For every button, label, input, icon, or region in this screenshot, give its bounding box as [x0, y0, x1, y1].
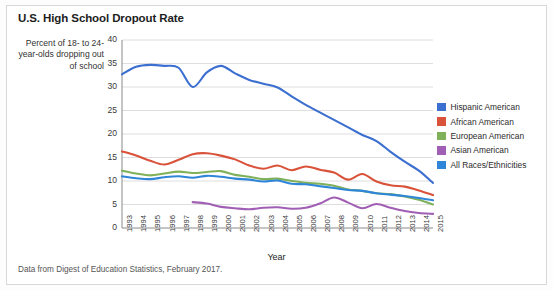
x-tick-label: 2014 [422, 215, 431, 232]
x-tick-label: 2005 [295, 215, 304, 232]
legend-swatch-icon [437, 103, 446, 112]
y-tick-label: 25 [95, 105, 117, 115]
series-line [122, 171, 433, 205]
x-tick-label: 2009 [351, 215, 360, 232]
legend-item[interactable]: Asian American [437, 143, 549, 157]
y-tick-label: 5 [95, 199, 117, 209]
legend-item[interactable]: African American [437, 114, 549, 128]
legend-label: European American [451, 131, 525, 141]
x-tick-label: 2001 [238, 215, 247, 232]
series-line [193, 197, 433, 213]
x-tick-label: 2010 [366, 215, 375, 232]
legend-item[interactable]: Hispanic American [437, 100, 549, 114]
figure-caption: Data from Digest of Education Statistics… [18, 265, 222, 274]
x-tick-label: 2011 [380, 216, 389, 232]
legend-swatch-icon [437, 146, 446, 155]
y-tick-label: 10 [95, 175, 117, 185]
x-tick-label: 2007 [323, 215, 332, 232]
x-tick-label: 1994 [139, 215, 148, 232]
x-axis-title: Year [0, 252, 553, 262]
x-tick-label: 1999 [210, 215, 219, 232]
y-tick-label: 15 [95, 152, 117, 162]
y-tick-label: 30 [95, 81, 117, 91]
legend-swatch-icon [437, 132, 446, 141]
x-tick-label: 2003 [267, 215, 276, 232]
x-tick-label: 2002 [252, 215, 261, 232]
legend-swatch-icon [437, 161, 446, 170]
x-tick-label: 2000 [224, 215, 233, 232]
x-tick-label: 2008 [337, 215, 346, 232]
y-tick-label: 40 [95, 34, 117, 44]
legend-item[interactable]: All Races/Ethnicities [437, 158, 549, 172]
x-tick-label: 2013 [408, 215, 417, 232]
figure-container: U.S. High School Dropout Rate Percent of… [0, 0, 553, 290]
x-tick-label: 2012 [394, 215, 403, 232]
x-tick-label: 1998 [196, 215, 205, 232]
y-tick-label: 20 [95, 128, 117, 138]
x-tick-label: 1997 [182, 215, 191, 232]
x-tick-label: 1996 [168, 215, 177, 232]
x-tick-label: 1993 [125, 215, 134, 232]
chart-legend: Hispanic American African American Europ… [437, 100, 549, 172]
legend-label: Asian American [451, 145, 509, 155]
y-tick-label: 0 [95, 222, 117, 232]
x-tick-label: 2015 [436, 215, 445, 232]
legend-label: Hispanic American [451, 102, 520, 112]
y-tick-label: 35 [95, 58, 117, 68]
legend-swatch-icon [437, 117, 446, 126]
x-tick-label: 1995 [153, 215, 162, 232]
legend-label: All Races/Ethnicities [451, 160, 527, 170]
legend-item[interactable]: European American [437, 129, 549, 143]
x-tick-label: 2004 [281, 215, 290, 232]
x-tick-label: 2006 [309, 215, 318, 232]
legend-label: African American [451, 117, 514, 127]
